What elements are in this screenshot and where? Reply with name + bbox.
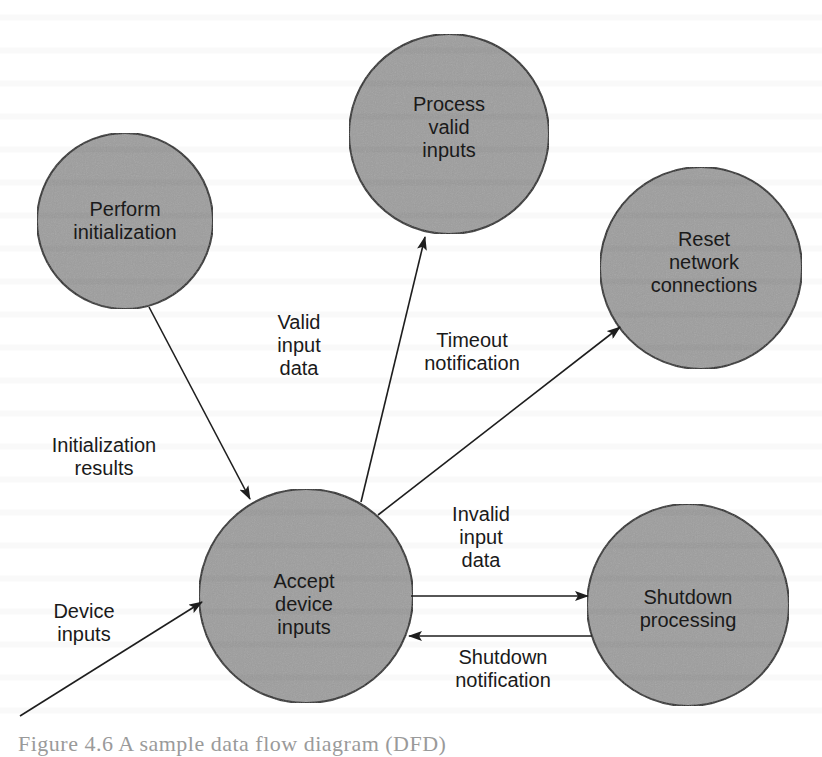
label-timeout-notification: Timeout notification [424, 329, 520, 375]
label-line: Timeout [424, 329, 520, 352]
label-device-inputs: Device inputs [53, 600, 114, 646]
label-line: Perform [73, 198, 176, 221]
label-line: network [651, 251, 758, 274]
label-line: notification [424, 352, 520, 375]
label-line: input [277, 334, 320, 357]
label-line: Valid [277, 311, 320, 334]
label-line: device [273, 593, 334, 616]
figure-caption: Figure 4.6 A sample data flow diagram (D… [18, 731, 446, 757]
label-line: Shutdown [455, 646, 551, 669]
label-line: data [277, 357, 320, 380]
label-line: inputs [53, 623, 114, 646]
label-invalid-input-data: Invalid input data [452, 503, 510, 572]
label-line: initialization [73, 221, 176, 244]
label-valid-input-data: Valid input data [277, 311, 320, 380]
label-line: valid [413, 116, 485, 139]
label-initialization-results: Initialization results [52, 434, 157, 480]
label-shutdown-notification: Shutdown notification [455, 646, 551, 692]
label-line: input [452, 526, 510, 549]
label-line: Process [413, 93, 485, 116]
label-accept-device-inputs: Accept device inputs [273, 570, 334, 639]
label-line: Shutdown [640, 586, 737, 609]
label-line: data [452, 549, 510, 572]
arrow-initialization-results[interactable] [149, 307, 250, 499]
label-perform-initialization: Perform initialization [73, 198, 176, 244]
label-line: inputs [273, 616, 334, 639]
label-line: Initialization [52, 434, 157, 457]
label-line: inputs [413, 139, 485, 162]
arrow-valid-input-data[interactable] [361, 237, 425, 502]
label-line: notification [455, 669, 551, 692]
label-process-valid-inputs: Process valid inputs [413, 93, 485, 162]
label-reset-network-connections: Reset network connections [651, 228, 758, 297]
label-line: Device [53, 600, 114, 623]
label-line: Reset [651, 228, 758, 251]
label-line: Invalid [452, 503, 510, 526]
label-line: Accept [273, 570, 334, 593]
label-line: results [52, 457, 157, 480]
label-line: processing [640, 609, 737, 632]
label-line: connections [651, 274, 758, 297]
label-shutdown-processing: Shutdown processing [640, 586, 737, 632]
